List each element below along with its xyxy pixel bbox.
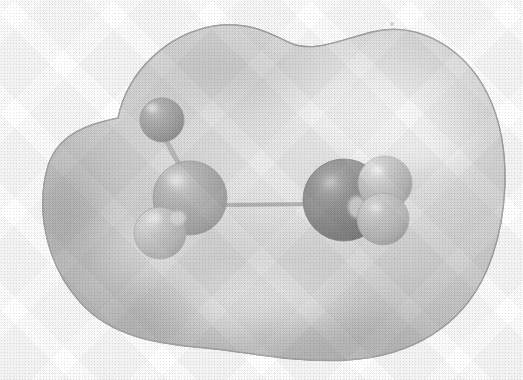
surface-front-highlight-lower	[120, 266, 380, 346]
figure-canvas	[0, 0, 523, 380]
isosurface-front-veil	[0, 0, 523, 380]
molecular-model-scene	[0, 0, 523, 380]
surface-front-highlight	[296, 68, 488, 172]
